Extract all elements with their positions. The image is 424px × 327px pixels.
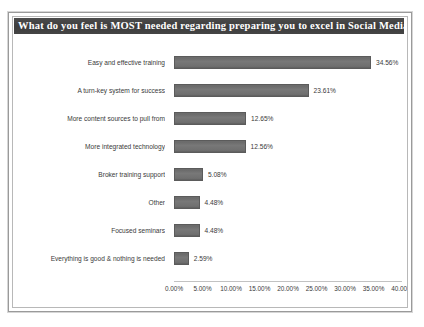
x-tick-label: 0.00%: [165, 285, 183, 292]
bar-category-label: Everything is good & nothing is needed: [13, 245, 165, 273]
bar-row: A turn-key system for success23.61%: [13, 77, 403, 105]
bar-category-label: More integrated technology: [13, 133, 165, 161]
bar-track: 34.56%: [174, 49, 403, 77]
bar-track: 23.61%: [174, 77, 403, 105]
bar[interactable]: [174, 196, 200, 209]
x-tick-label: 40.00%: [391, 285, 408, 292]
x-tick-label: 35.00%: [363, 285, 385, 292]
bar[interactable]: [174, 252, 189, 265]
bar-row: Focused seminars4.48%: [13, 217, 403, 245]
bar-category-label: More content sources to pull from: [13, 105, 165, 133]
bar[interactable]: [174, 140, 246, 153]
x-axis-tick-labels: 0.00%5.00%10.00%15.00%20.00%25.00%30.00%…: [13, 285, 407, 299]
bar-track: 4.48%: [174, 189, 403, 217]
bar-row: Other4.48%: [13, 189, 403, 217]
bar[interactable]: [174, 56, 371, 69]
bar[interactable]: [174, 168, 203, 181]
bar-category-label: Easy and effective training: [13, 49, 165, 77]
x-tick-label: 15.00%: [249, 285, 271, 292]
bar-row: Everything is good & nothing is needed2.…: [13, 245, 403, 273]
bar-category-label: A turn-key system for success: [13, 77, 165, 105]
bar-track: 12.56%: [174, 133, 403, 161]
bar[interactable]: [174, 224, 200, 237]
bar-category-label: Focused seminars: [13, 217, 165, 245]
bar[interactable]: [174, 84, 309, 97]
bar-track: 12.65%: [174, 105, 403, 133]
bar-category-label: Broker training support: [13, 161, 165, 189]
x-axis-line: [174, 281, 402, 282]
bar[interactable]: [174, 112, 246, 125]
x-tick-label: 20.00%: [277, 285, 299, 292]
x-tick-label: 5.00%: [193, 285, 211, 292]
bar-row: More integrated technology12.56%: [13, 133, 403, 161]
bar-value-label: 23.61%: [309, 77, 336, 105]
x-tick-label: 25.00%: [306, 285, 328, 292]
bar-value-label: 2.59%: [189, 245, 213, 273]
bar-value-label: 12.56%: [246, 133, 273, 161]
bar-value-label: 5.08%: [203, 161, 227, 189]
bar-value-label: 4.48%: [200, 217, 224, 245]
bar-category-label: Other: [13, 189, 165, 217]
bar-row: More content sources to pull from12.65%: [13, 105, 403, 133]
bar-row: Broker training support5.08%: [13, 161, 403, 189]
bar-value-label: 4.48%: [200, 189, 224, 217]
x-tick-label: 30.00%: [334, 285, 356, 292]
x-tick-label: 10.00%: [220, 285, 242, 292]
plot-area: Easy and effective training34.56%A turn-…: [13, 35, 407, 307]
bar-value-label: 12.65%: [246, 105, 273, 133]
chart-title: What do you feel is MOST needed regardin…: [14, 18, 404, 34]
bar-value-label: 34.56%: [371, 49, 398, 77]
chart-frame: What do you feel is MOST needed regardin…: [8, 12, 412, 312]
bar-track: 5.08%: [174, 161, 403, 189]
bar-row: Easy and effective training34.56%: [13, 49, 403, 77]
bar-track: 2.59%: [174, 245, 403, 273]
chart-canvas: What do you feel is MOST needed regardin…: [12, 16, 408, 308]
bar-track: 4.48%: [174, 217, 403, 245]
